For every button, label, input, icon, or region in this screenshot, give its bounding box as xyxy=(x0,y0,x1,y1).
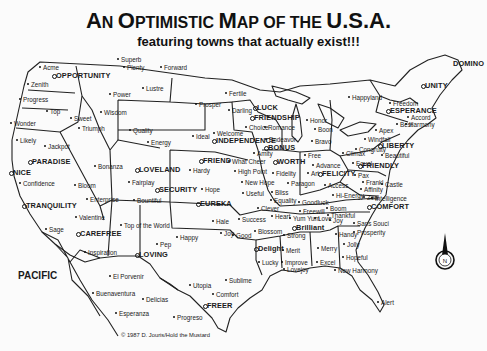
town-marker-dot-icon xyxy=(100,111,102,113)
town-marker-dot-icon xyxy=(176,236,178,238)
town-marker-dot-icon xyxy=(281,261,283,263)
town-label: Lucky xyxy=(262,259,278,266)
town-label: Harmony xyxy=(409,121,435,128)
town-label: Inspiration xyxy=(88,249,117,256)
town-marker-dot-icon xyxy=(316,261,318,263)
town-label: Prosperity xyxy=(357,229,385,236)
town-marker-dot-icon xyxy=(120,224,122,226)
town-label: What Cheer xyxy=(232,158,266,165)
town-marker-dot-icon xyxy=(92,292,94,294)
town-label: Goodluck xyxy=(302,199,329,206)
town-marker-dot-icon xyxy=(317,247,319,249)
town-label: Bloom xyxy=(78,182,96,189)
town-label: Romance xyxy=(268,124,295,131)
town-label: El Porvenir xyxy=(113,273,144,280)
town-marker-dot-icon xyxy=(201,188,203,190)
town-marker-dot-icon xyxy=(282,249,284,251)
town-label: Fairplay xyxy=(132,179,154,186)
town-label: Zenith xyxy=(31,81,49,88)
town-label: Equality xyxy=(274,197,296,204)
town-label: Quality xyxy=(133,127,153,134)
town-label: Bonanza xyxy=(98,163,123,170)
town-label: Paragon xyxy=(291,180,315,187)
ocean-label-pacific: PACIFIC xyxy=(18,272,57,279)
town-marker-dot-icon xyxy=(173,316,175,318)
town-label: New Harmony xyxy=(338,267,378,274)
town-label: Buenaventura xyxy=(96,290,135,297)
copyright-notice: © 1987 D. Jouris/Hold the Mustard xyxy=(121,332,210,339)
town-marker-dot-icon xyxy=(86,198,88,200)
town-label: Energy xyxy=(151,139,171,146)
town-marker-dot-icon xyxy=(314,217,316,219)
town-label: Boon xyxy=(318,126,333,133)
town-marker-dot-icon xyxy=(381,183,383,185)
town-marker-dot-icon xyxy=(253,152,255,154)
town-label: Beautiful xyxy=(385,152,410,159)
town-marker-dot-icon xyxy=(238,218,240,220)
town-label: Happyland xyxy=(352,94,382,101)
town-label: Excel xyxy=(320,259,335,266)
town-label: LOVELAND xyxy=(139,166,180,173)
town-label: DOMINO xyxy=(453,60,484,67)
town-marker-dot-icon xyxy=(156,243,158,245)
town-marker-dot-icon xyxy=(352,162,354,164)
map-title: AN OPTIMISTIC MAP OF THE U.S.A. xyxy=(0,8,477,34)
svg-text:N: N xyxy=(443,258,447,264)
town-label: Esperanza xyxy=(119,310,149,317)
town-label: Delight xyxy=(258,245,284,252)
town-marker-dot-icon xyxy=(342,256,344,258)
town-marker-dot-icon xyxy=(342,152,344,154)
town-marker-dot-icon xyxy=(109,275,111,277)
town-label: SECURITY xyxy=(159,186,197,193)
town-label: Hi-Energy xyxy=(336,192,364,199)
town-marker-dot-icon xyxy=(228,109,230,111)
north-arrow-icon: N xyxy=(433,233,457,271)
town-label: Lustre xyxy=(146,85,164,92)
town-marker-dot-icon xyxy=(371,197,373,199)
town-label: Intelligence xyxy=(375,195,407,202)
town-marker-dot-icon xyxy=(364,138,366,140)
town-marker-dot-icon xyxy=(84,251,86,253)
town-label: LOVING xyxy=(139,251,168,258)
town-label: Boom xyxy=(330,205,346,212)
town-label: COMFORT xyxy=(371,203,409,210)
town-marker-dot-icon xyxy=(304,154,306,156)
town-label: Alert xyxy=(381,299,394,306)
town-label: EUREKA xyxy=(200,200,232,207)
town-label: Ideal xyxy=(196,133,210,140)
town-label: Valentine xyxy=(79,214,105,221)
town-label: Hardy xyxy=(193,167,210,174)
town-label: Success xyxy=(242,216,266,223)
town-label: New Hope xyxy=(245,179,274,186)
town-marker-dot-icon xyxy=(19,98,21,100)
town-marker-dot-icon xyxy=(343,243,345,245)
town-label: Good xyxy=(236,232,251,239)
town-marker-dot-icon xyxy=(117,58,119,60)
town-marker-dot-icon xyxy=(257,207,259,209)
town-marker-dot-icon xyxy=(160,66,162,68)
town-marker-dot-icon xyxy=(265,138,267,140)
town-marker-dot-icon xyxy=(363,196,365,198)
town-label: Access xyxy=(328,182,348,189)
town-label: Comfort xyxy=(216,291,238,298)
town-marker-dot-icon xyxy=(109,93,111,95)
town-marker-dot-icon xyxy=(360,188,362,190)
town-marker-dot-icon xyxy=(115,312,117,314)
town-marker-dot-icon xyxy=(78,127,80,129)
town-label: Affinity xyxy=(364,186,383,193)
town-label: FREER xyxy=(207,302,233,309)
town-marker-dot-icon xyxy=(396,123,398,125)
town-label: Pax xyxy=(358,172,369,179)
town-label: Happy xyxy=(180,234,198,241)
town-marker-dot-icon xyxy=(270,199,272,201)
town-marker-dot-icon xyxy=(234,170,236,172)
town-label: Sage xyxy=(49,226,64,233)
town-marker-dot-icon xyxy=(271,191,273,193)
town-label: Endeavor xyxy=(269,136,296,143)
town-marker-dot-icon xyxy=(298,201,300,203)
town-marker-dot-icon xyxy=(389,102,391,104)
town-marker-dot-icon xyxy=(142,298,144,300)
town-label: Sweet xyxy=(74,115,92,122)
town-marker-dot-icon xyxy=(332,194,334,196)
town-label: Clever xyxy=(261,205,279,212)
